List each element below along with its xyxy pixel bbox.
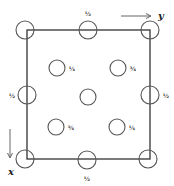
atom-inner-upper-right [110,60,126,76]
height-label-right-mid: ½ [163,92,169,99]
x-axis-label: x [7,166,15,177]
height-label-inner-upper-right: ¾ [130,65,137,72]
y-axis-arrow-icon [121,14,151,19]
y-axis-label: y [157,10,165,21]
x-axis-arrow-icon [8,129,13,158]
atom-edge-bottom-mid [78,151,96,169]
height-label-top-mid: ½ [85,10,91,17]
height-label-inner-lower-right: ¼ [129,124,136,131]
atom-center [80,89,96,105]
height-label-inner-upper-left: ¼ [69,65,76,72]
atom-inner-upper-left [49,60,65,76]
atom-inner-lower-left [48,119,64,135]
atom-inner-lower-right [109,119,125,135]
height-label-bottom-mid: ½ [84,175,90,182]
height-label-inner-lower-left: ¾ [68,124,75,131]
crystal-projection-diagram: ½ ½ ½ ½ ¼ ¾ ¾ ¼ y x [0,0,174,186]
height-label-left-mid: ½ [9,92,15,99]
unit-cell-outline [27,30,150,159]
